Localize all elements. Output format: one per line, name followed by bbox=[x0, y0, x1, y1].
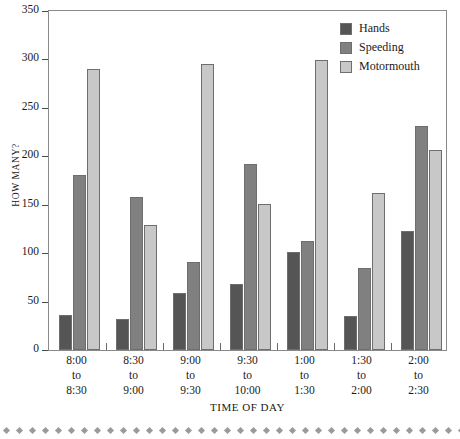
y-tick-label: 200 bbox=[22, 148, 39, 160]
y-tick-mark bbox=[42, 253, 48, 254]
decorative-dot-icon bbox=[16, 426, 23, 433]
legend-item[interactable]: Hands bbox=[340, 20, 420, 37]
y-tick: 100 bbox=[0, 253, 48, 254]
chart-legend: HandsSpeedingMotormouth bbox=[340, 20, 420, 77]
y-tick: 300 bbox=[0, 59, 48, 60]
decorative-dot-icon bbox=[146, 426, 153, 433]
y-tick: 50 bbox=[0, 302, 48, 303]
decorative-dot-icon bbox=[237, 426, 244, 433]
y-tick-label: 100 bbox=[22, 245, 39, 257]
decorative-dot-icon bbox=[445, 426, 452, 433]
y-tick-mark bbox=[42, 205, 48, 206]
x-tick-mark bbox=[220, 343, 221, 350]
x-tick-label-line: to bbox=[219, 368, 276, 383]
x-tick-label-line: 9:30 bbox=[162, 383, 219, 398]
x-tick-label-line: 2:00 bbox=[390, 353, 447, 368]
y-tick-mark bbox=[42, 156, 48, 157]
x-tick-mark bbox=[334, 343, 335, 350]
y-tick-label: 250 bbox=[22, 100, 39, 112]
x-axis-title: TIME OF DAY bbox=[48, 401, 447, 413]
legend-swatch-icon bbox=[340, 61, 352, 73]
y-tick: 0 bbox=[0, 350, 48, 351]
x-axis-ticks: 8:00to8:308:30to9:009:00to9:309:30to10:0… bbox=[48, 353, 447, 401]
legend-item[interactable]: Motormouth bbox=[340, 58, 420, 75]
x-tick-label-line: 1:00 bbox=[276, 353, 333, 368]
x-tick-label: 8:30to9:00 bbox=[105, 353, 162, 398]
decorative-dot-icon bbox=[354, 426, 361, 433]
decorative-dot-icon bbox=[185, 426, 192, 433]
bar-group bbox=[173, 11, 214, 350]
x-tick-mark bbox=[277, 343, 278, 350]
x-tick-mark bbox=[391, 343, 392, 350]
y-tick-mark bbox=[42, 59, 48, 60]
x-tick-label-line: 8:00 bbox=[48, 353, 105, 368]
y-tick: 350 bbox=[0, 11, 48, 12]
decorative-dot-icon bbox=[55, 426, 62, 433]
decorative-dot-icon bbox=[211, 426, 218, 433]
decorative-dot-icon bbox=[289, 426, 296, 433]
decorative-dot-icon bbox=[42, 426, 49, 433]
decorative-dot-icon bbox=[367, 426, 374, 433]
decorative-dot-icon bbox=[29, 426, 36, 433]
x-tick-label-line: to bbox=[162, 368, 219, 383]
y-tick-label: 0 bbox=[33, 342, 39, 354]
y-tick: 200 bbox=[0, 156, 48, 157]
x-tick-label-line: 2:00 bbox=[333, 383, 390, 398]
decorative-dot-icon bbox=[3, 426, 10, 433]
x-tick-label-line: to bbox=[276, 368, 333, 383]
y-axis-title: HOW MANY? bbox=[11, 125, 21, 225]
x-tick-label: 9:30to10:00 bbox=[219, 353, 276, 398]
y-tick-mark bbox=[42, 302, 48, 303]
decorative-dot-icon bbox=[276, 426, 283, 433]
legend-swatch-icon bbox=[340, 23, 352, 35]
x-tick-label-line: 8:30 bbox=[105, 353, 162, 368]
decorative-dot-icon bbox=[263, 426, 270, 433]
x-tick-label-line: 9:00 bbox=[162, 353, 219, 368]
bar-group bbox=[287, 11, 328, 350]
x-tick-label-line: to bbox=[48, 368, 105, 383]
y-tick-mark bbox=[42, 11, 48, 12]
x-tick-label: 8:00to8:30 bbox=[48, 353, 105, 398]
decorative-dot-icon bbox=[81, 426, 88, 433]
y-tick-label: 300 bbox=[22, 51, 39, 63]
y-tick-mark bbox=[42, 108, 48, 109]
legend-swatch-icon bbox=[340, 42, 352, 54]
x-tick-label-line: 8:30 bbox=[48, 383, 105, 398]
bar-group bbox=[230, 11, 271, 350]
decorative-dot-icon bbox=[406, 426, 413, 433]
legend-label: Speeding bbox=[359, 40, 404, 55]
decorative-dot-icon bbox=[250, 426, 257, 433]
decorative-dot-icon bbox=[198, 426, 205, 433]
decorative-dot-icon bbox=[393, 426, 400, 433]
x-tick-label-line: 9:00 bbox=[105, 383, 162, 398]
x-tick-label: 2:00to2:30 bbox=[390, 353, 447, 398]
decorative-dot-icon bbox=[107, 426, 114, 433]
legend-item[interactable]: Speeding bbox=[340, 39, 420, 56]
x-tick-label: 1:30to2:00 bbox=[333, 353, 390, 398]
decorative-dot-icon bbox=[328, 426, 335, 433]
x-tick-label-line: 1:30 bbox=[333, 353, 390, 368]
decorative-dot-icon bbox=[419, 426, 426, 433]
decorative-dot-icon bbox=[380, 426, 387, 433]
x-tick-label-line: 1:30 bbox=[276, 383, 333, 398]
decorative-dot-icon bbox=[172, 426, 179, 433]
decorative-dot-icon bbox=[341, 426, 348, 433]
legend-label: Motormouth bbox=[359, 59, 420, 74]
decorative-dot-icon bbox=[120, 426, 127, 433]
decorative-dot-icon bbox=[432, 426, 439, 433]
decorative-dot-icon bbox=[94, 426, 101, 433]
x-tick-label-line: 9:30 bbox=[219, 353, 276, 368]
x-tick-mark bbox=[106, 343, 107, 350]
x-tick-label: 1:00to1:30 bbox=[276, 353, 333, 398]
x-tick-label-line: to bbox=[105, 368, 162, 383]
legend-label: Hands bbox=[359, 21, 390, 36]
bar-chart: HOW MANY? 050100150200250300350 8:00to8:… bbox=[0, 0, 460, 439]
bar-group bbox=[116, 11, 157, 350]
decorative-dot-icon bbox=[159, 426, 166, 433]
x-tick-label-line: 2:30 bbox=[390, 383, 447, 398]
y-tick-label: 150 bbox=[22, 197, 39, 209]
decorative-dot-icon bbox=[68, 426, 75, 433]
x-tick-label-line: to bbox=[333, 368, 390, 383]
y-tick: 150 bbox=[0, 205, 48, 206]
x-tick-label-line: to bbox=[390, 368, 447, 383]
